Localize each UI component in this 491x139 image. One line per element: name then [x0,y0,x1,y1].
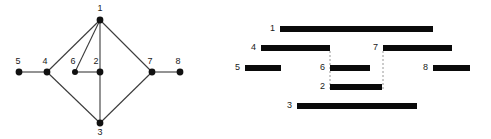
interval-bar-6[interactable] [330,65,370,71]
interval-bar-1[interactable] [280,26,433,32]
graph-node-4[interactable] [44,69,51,76]
interval-bar-label-5: 5 [235,62,240,72]
interval-bar-3[interactable] [297,103,417,109]
graph-node-label-3: 3 [97,127,102,137]
graph-edge-3-7 [100,72,152,123]
graph-node-label-5: 5 [15,56,20,66]
graph-diagram: 12345678 [0,0,225,139]
graph-node-label-8: 8 [175,56,180,66]
figure-root: 12345678 14756823 [0,0,491,139]
graph-panel: 12345678 [0,0,225,139]
interval-bar-5[interactable] [245,65,281,71]
graph-edge-4-3 [47,72,100,123]
graph-node-label-1: 1 [97,3,102,13]
graph-node-7[interactable] [149,69,156,76]
graph-node-label-4: 4 [42,56,47,66]
graph-node-label-2: 2 [93,56,98,66]
graph-node-8[interactable] [177,69,184,76]
interval-bar-label-3: 3 [287,100,292,110]
graph-node-1[interactable] [97,17,104,24]
interval-bar-label-1: 1 [270,23,275,33]
interval-bar-label-7: 7 [373,42,378,52]
graph-node-label-7: 7 [147,56,152,66]
graph-edge-1-7 [100,20,152,72]
interval-bar-2[interactable] [330,84,382,90]
interval-diagram: 14756823 [225,0,491,139]
interval-bar-label-8: 8 [423,62,428,72]
interval-bar-label-6: 6 [320,62,325,72]
interval-bar-label-2: 2 [320,81,325,91]
interval-panel: 14756823 [225,0,491,139]
interval-bar-label-4: 4 [251,42,256,52]
interval-bar-8[interactable] [433,65,470,71]
interval-bar-4[interactable] [261,45,330,51]
interval-bar-group [245,26,470,109]
graph-node-5[interactable] [16,69,23,76]
graph-node-2[interactable] [97,69,104,76]
graph-node-6[interactable] [72,69,78,75]
graph-node-label-6: 6 [70,56,75,66]
graph-node-3[interactable] [97,120,104,127]
interval-bar-7[interactable] [383,45,452,51]
